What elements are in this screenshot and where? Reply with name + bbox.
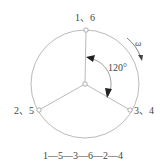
center-node — [83, 82, 87, 86]
node-right — [128, 108, 132, 112]
omega-label: ω — [135, 38, 141, 48]
firing-order: 1—5—3—6—2—4 — [0, 150, 166, 161]
rotation-arrowhead — [138, 55, 143, 61]
angle-label: 120° — [108, 63, 127, 73]
arc-arrowhead-start — [86, 55, 95, 62]
label-right: 3、4 — [134, 106, 154, 116]
label-top: 1、6 — [75, 13, 95, 23]
spoke-top — [85, 30, 86, 84]
node-top — [84, 28, 88, 32]
node-left — [37, 108, 41, 112]
spoke-left — [39, 84, 85, 110]
label-left: 2、5 — [14, 106, 34, 116]
crank-diagram — [0, 0, 166, 168]
